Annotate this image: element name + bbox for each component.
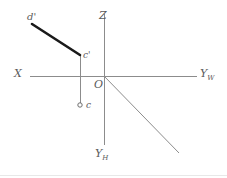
diagram-svg [0, 0, 227, 178]
point-label-c-prime: c' [83, 51, 91, 60]
axis-label-yh: YH [95, 148, 108, 162]
axis-label-yh-subscript: H [102, 154, 108, 162]
axis-label-x: X [14, 68, 22, 79]
diagram-canvas: X Z YW YH O d' c' c [0, 0, 227, 178]
point-label-c: c [86, 101, 91, 110]
segment-c-prime-d-prime [32, 24, 80, 55]
y-oblique-axis-line [104, 76, 179, 153]
axis-label-yw-subscript: W [207, 74, 214, 82]
point-label-d-prime: d' [27, 12, 36, 22]
point-c-marker [78, 103, 82, 107]
origin-label: O [94, 79, 103, 90]
axis-label-yw: YW [200, 68, 214, 82]
axis-label-z: Z [99, 10, 107, 21]
